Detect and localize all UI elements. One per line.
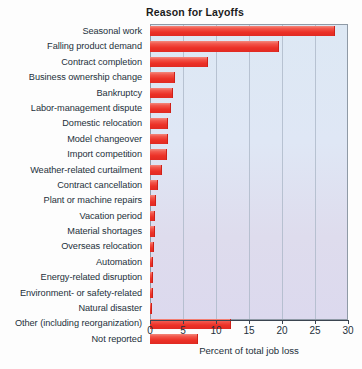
x-tick-mark	[150, 320, 151, 324]
x-axis-title: Percent of total job loss	[150, 345, 348, 356]
bar-row	[150, 24, 348, 39]
category-label: Natural disaster	[0, 301, 146, 316]
bar	[150, 72, 175, 82]
bar	[150, 57, 208, 67]
category-label: Other (including reorganization)	[0, 316, 146, 331]
x-tick-label: 10	[210, 325, 221, 336]
bar-row	[150, 70, 348, 85]
bar	[150, 149, 167, 159]
bar-row	[150, 116, 348, 131]
category-label: Seasonal work	[0, 24, 146, 39]
x-tick-mark	[348, 320, 349, 324]
bar	[150, 242, 154, 252]
bar-row	[150, 286, 348, 301]
category-label: Domestic relocation	[0, 116, 146, 131]
category-label: Falling product demand	[0, 39, 146, 54]
bar-row	[150, 101, 348, 116]
bar	[150, 226, 155, 236]
x-tick-mark	[249, 320, 250, 324]
bar-row	[150, 86, 348, 101]
x-tick-label: 15	[243, 325, 254, 336]
bar	[150, 272, 153, 282]
category-label: Material shortages	[0, 224, 146, 239]
chart-figure: Reason for Layoffs Seasonal workFalling …	[0, 0, 362, 369]
bar	[150, 288, 153, 298]
category-label: Bankruptcy	[0, 86, 146, 101]
bar-row	[150, 147, 348, 162]
bar-row	[150, 163, 348, 178]
x-tick-mark	[315, 320, 316, 324]
category-label: Automation	[0, 255, 146, 270]
chart-title: Reason for Layoffs	[0, 6, 362, 18]
bar	[150, 180, 158, 190]
bar	[150, 195, 156, 205]
bar-row	[150, 301, 348, 316]
x-tick-label: 5	[180, 325, 186, 336]
category-label: Contract completion	[0, 55, 146, 70]
category-label: Business ownership change	[0, 70, 146, 85]
bar	[150, 257, 153, 267]
bar-row	[150, 193, 348, 208]
category-label: Contract cancellation	[0, 178, 146, 193]
category-labels: Seasonal workFalling product demandContr…	[0, 24, 146, 320]
bar-row	[150, 224, 348, 239]
bar	[150, 334, 198, 344]
bar	[150, 211, 155, 221]
x-tick-mark	[282, 320, 283, 324]
category-label: Model changeover	[0, 132, 146, 147]
category-label: Import competition	[0, 147, 146, 162]
x-tick-label: 0	[147, 325, 153, 336]
bar-row	[150, 39, 348, 54]
category-label: Not reported	[0, 332, 146, 347]
category-label: Energy-related disruption	[0, 270, 146, 285]
bar-row	[150, 209, 348, 224]
bars-layer	[150, 24, 348, 320]
category-label: Overseas relocation	[0, 239, 146, 254]
bar-row	[150, 132, 348, 147]
category-label: Environment- or safety-related	[0, 286, 146, 301]
bar	[150, 118, 168, 128]
bar	[150, 103, 171, 113]
bar-row	[150, 255, 348, 270]
x-tick-mark	[216, 320, 217, 324]
bar-row	[150, 178, 348, 193]
category-label: Vacation period	[0, 209, 146, 224]
bar	[150, 134, 168, 144]
category-label: Labor-management dispute	[0, 101, 146, 116]
category-label: Weather-related curtailment	[0, 163, 146, 178]
bar	[150, 165, 162, 175]
bar-row	[150, 55, 348, 70]
x-tick-label: 25	[309, 325, 320, 336]
bar	[150, 303, 152, 313]
bar	[150, 26, 335, 36]
x-tick-mark	[183, 320, 184, 324]
bar-row	[150, 239, 348, 254]
bar-row	[150, 270, 348, 285]
bar	[150, 41, 279, 51]
category-label: Plant or machine repairs	[0, 193, 146, 208]
x-tick-label: 20	[276, 325, 287, 336]
x-tick-label: 30	[342, 325, 353, 336]
bar	[150, 88, 173, 98]
